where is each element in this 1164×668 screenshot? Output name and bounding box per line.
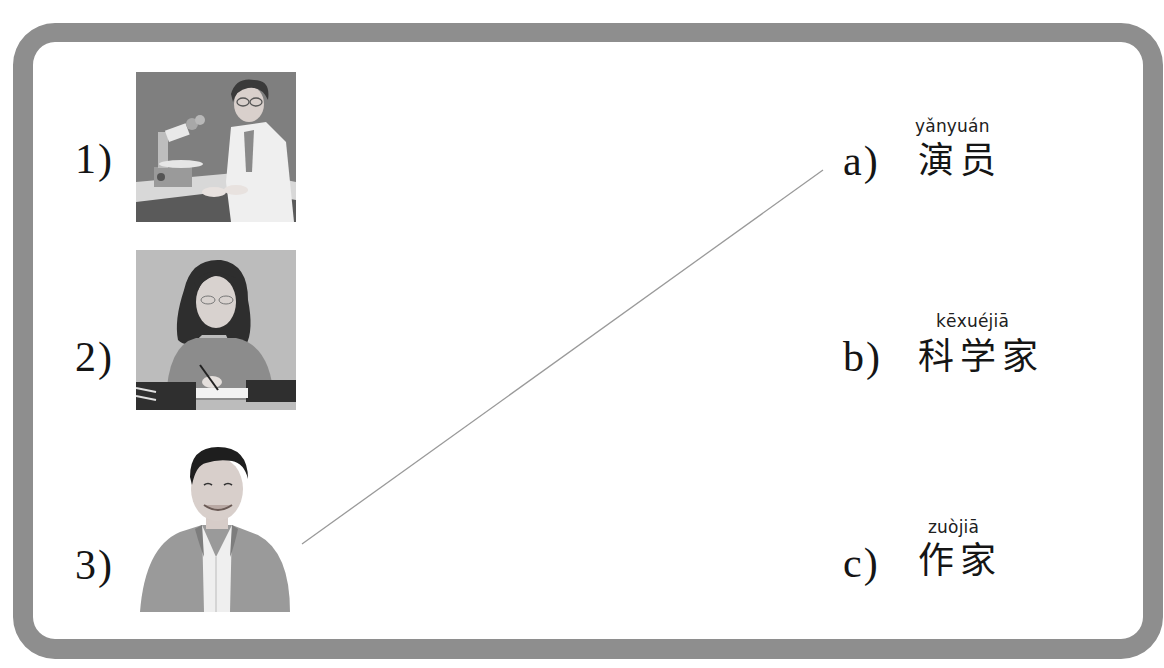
option-letter-b: b) <box>843 336 882 378</box>
picture-number-1: 1) <box>75 138 114 180</box>
writer-illustration-icon[interactable] <box>136 250 296 410</box>
actor-illustration-icon[interactable] <box>140 437 292 612</box>
option-hanzi-a: 演员 <box>918 142 1002 180</box>
option-hanzi-c: 作家 <box>918 542 1002 580</box>
option-hanzi-b: 科学家 <box>918 338 1044 376</box>
option-pinyin-b: kēxuéjiā <box>936 312 1009 330</box>
option-letter-c: c) <box>843 542 880 584</box>
option-pinyin-a: yǎnyuán <box>915 117 990 135</box>
picture-number-3: 3) <box>75 544 114 586</box>
picture-number-2: 2) <box>75 336 114 378</box>
option-letter-a: a) <box>843 140 880 182</box>
scientist-illustration-icon[interactable] <box>136 72 296 222</box>
option-pinyin-c: zuòjiā <box>928 518 979 536</box>
